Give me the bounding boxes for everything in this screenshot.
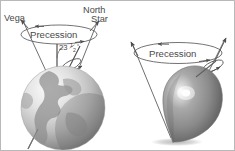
precession-label-top: Precession bbox=[149, 48, 196, 59]
vega-label: Vega bbox=[4, 13, 26, 23]
tilt-angle-whole: 23 bbox=[59, 43, 67, 52]
precession-diagram-svg: Vega North Star Precession 23 1 2 ° bbox=[1, 1, 235, 151]
north-star-label-line2: Star bbox=[91, 14, 108, 24]
tilt-angle-denominator: 2 bbox=[73, 47, 76, 53]
earth-panel: Vega North Star Precession 23 1 2 ° bbox=[4, 5, 123, 151]
top-spin-arrow bbox=[211, 67, 220, 72]
top-axis-pointer-right bbox=[215, 38, 226, 61]
earth-globe bbox=[20, 66, 123, 151]
tilt-angle-degree-sign: ° bbox=[77, 43, 79, 49]
tilt-angle-label: 23 1 2 ° bbox=[59, 42, 79, 53]
precession-figure: Vega North Star Precession 23 1 2 ° bbox=[0, 0, 235, 151]
spinning-top-body bbox=[163, 66, 223, 142]
precession-label-earth: Precession bbox=[30, 29, 77, 40]
